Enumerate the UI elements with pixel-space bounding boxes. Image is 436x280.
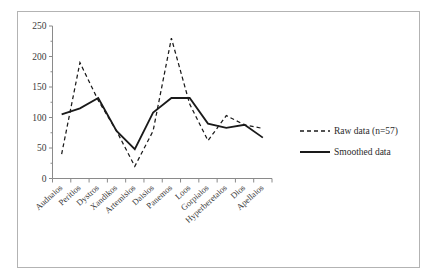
legend-entry-smoothed-data[interactable]: Smoothed data (300, 147, 392, 157)
y-tick-label: 100 (32, 113, 47, 123)
legend-label: Smoothed data (334, 147, 392, 157)
x-axis-ticks (53, 179, 273, 183)
legend-label: Raw data (n=57) (334, 126, 398, 137)
y-tick-label: 250 (32, 21, 47, 31)
x-axis-category-labels: AudnaiosPeritiosDystrosXandikosArtemisio… (33, 182, 266, 225)
line-chart: 050100150200250 AudnaiosPeritiosDystrosX… (0, 0, 436, 280)
y-tick-label: 200 (32, 52, 47, 62)
y-axis-ticks (49, 26, 53, 179)
y-tick-label: 0 (42, 174, 47, 184)
y-axis-tick-labels: 050100150200250 (32, 21, 47, 184)
series-line-smoothed-data (62, 98, 263, 149)
y-tick-label: 50 (37, 143, 47, 153)
y-tick-label: 150 (32, 82, 47, 92)
legend: Raw data (n=57)Smoothed data (300, 126, 398, 157)
legend-entry-raw-data[interactable]: Raw data (n=57) (300, 126, 398, 137)
